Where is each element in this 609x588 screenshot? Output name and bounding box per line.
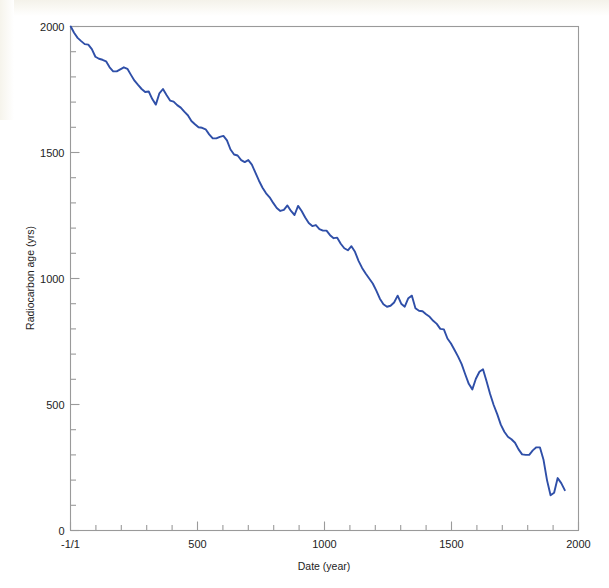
x-tick-label: 1000 [312,538,336,550]
x-axis-tick-labels: -1/1500100015002000 [61,538,591,550]
y-tick-label: 1500 [40,147,64,159]
y-axis-ticks [71,27,80,531]
y-tick-label: 0 [58,525,64,537]
y-tick-label: 2000 [40,21,64,33]
radiocarbon-calibration-chart: -1/1500100015002000 0500100015002000 Dat… [0,0,609,588]
x-tick-label: 1500 [439,538,463,550]
y-axis-title: Radiocarbon age (yrs) [24,226,36,330]
x-tick-label: 500 [188,538,206,550]
x-tick-label: 2000 [566,538,590,550]
x-axis-ticks [71,522,579,531]
y-axis-tick-labels: 0500100015002000 [40,21,64,537]
plot-area-border [71,27,579,531]
plot-frame [71,27,579,531]
x-axis-title: Date (year) [298,560,351,572]
y-tick-label: 500 [46,399,64,411]
calibration-curve-line [71,27,565,496]
chart-figure: -1/1500100015002000 0500100015002000 Dat… [0,0,609,588]
y-tick-label: 1000 [40,273,64,285]
x-tick-label: -1/1 [61,538,80,550]
